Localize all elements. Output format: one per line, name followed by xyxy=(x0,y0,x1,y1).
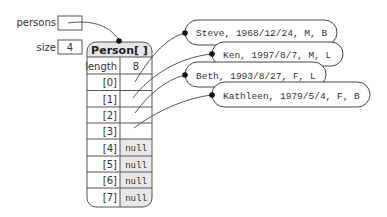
object-text: Beth, 1993/8/27, F, L xyxy=(196,71,316,82)
object-text: Ken, 1997/8/7, M, L xyxy=(223,50,332,61)
size-label: size xyxy=(37,42,56,53)
reference-dot-icon xyxy=(209,92,215,98)
index-label: [7] xyxy=(103,192,117,203)
null-value: null xyxy=(125,177,147,187)
index-label: [0] xyxy=(103,77,117,88)
persons-label: persons xyxy=(17,17,57,28)
person-array: Person[ ] length 8 [0] [1] [2] [3] [4] [… xyxy=(85,42,152,207)
object-text: Kathleen, 1979/5/4, F, B xyxy=(223,91,360,102)
length-label: length xyxy=(85,61,117,72)
index-label: [4] xyxy=(103,143,117,154)
reference-dot-icon xyxy=(116,38,122,44)
index-label: [2] xyxy=(103,110,117,121)
null-value: null xyxy=(125,144,147,154)
reference-dot-icon xyxy=(209,51,215,57)
reference-dot-icon xyxy=(182,30,188,36)
object-kathleen[interactable]: Kathleen, 1979/5/4, F, B xyxy=(212,82,370,107)
size-value: 4 xyxy=(67,42,73,53)
length-value: 8 xyxy=(133,61,139,72)
index-label: [3] xyxy=(103,126,117,137)
null-value: null xyxy=(125,194,147,204)
index-label: [1] xyxy=(103,94,117,105)
index-label: [5] xyxy=(103,159,117,170)
index-label: [6] xyxy=(103,175,117,186)
object-text: Steve, 1968/12/24, M, B xyxy=(196,28,327,39)
object-steve[interactable]: Steve, 1968/12/24, M, B xyxy=(185,20,337,45)
reference-dot-icon xyxy=(182,72,188,78)
array-type-title: Person[ ] xyxy=(91,44,148,57)
memory-diagram: persons size 4 Person[ ] length 8 [0] [1… xyxy=(0,0,387,217)
null-value: null xyxy=(125,161,147,171)
